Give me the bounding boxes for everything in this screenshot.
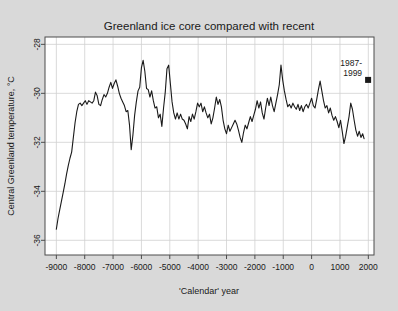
x-tick-label: -4000 — [187, 262, 209, 272]
y-tick-label: -36 — [32, 234, 42, 247]
y-tick-label: -32 — [32, 136, 42, 149]
x-tick-label: -5000 — [159, 262, 181, 272]
x-tick-label: -9000 — [45, 262, 67, 272]
chart-title: Greenland ice core compared with recent — [104, 20, 315, 32]
x-tick-label: 1000 — [331, 262, 350, 272]
x-tick-label: 0 — [309, 262, 314, 272]
legend-label-line1: 1987- — [340, 58, 362, 68]
x-tick-label: -2000 — [244, 262, 266, 272]
x-axis-label: 'Calendar' year — [179, 286, 239, 296]
x-tick-label: -7000 — [102, 262, 124, 272]
x-tick-label: -3000 — [216, 262, 238, 272]
y-tick-label: -30 — [32, 87, 42, 100]
legend-label-line2: 1999 — [343, 68, 362, 78]
plot-area-background — [45, 37, 374, 255]
y-tick-label: -28 — [32, 38, 42, 51]
chart-figure: -9000-8000-7000-6000-5000-4000-3000-2000… — [0, 0, 398, 311]
x-tick-label: -1000 — [272, 262, 294, 272]
x-tick-label: -6000 — [131, 262, 153, 272]
y-axis-label: Central Greenland temperature, °C — [6, 76, 16, 216]
greenland-ice-core-chart: -9000-8000-7000-6000-5000-4000-3000-2000… — [0, 0, 398, 311]
x-tick-label: -8000 — [74, 262, 96, 272]
x-tick-label: 2000 — [359, 262, 378, 272]
y-tick-label: -34 — [32, 185, 42, 198]
legend-marker-square — [365, 77, 371, 83]
